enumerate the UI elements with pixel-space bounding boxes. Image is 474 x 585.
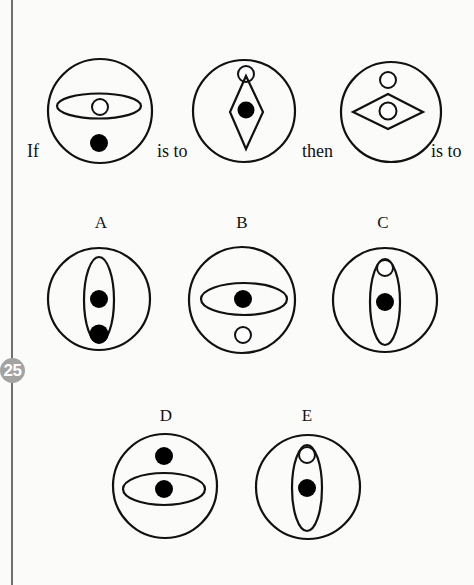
black-dot-icon — [238, 102, 255, 119]
black-dot-icon — [234, 290, 252, 308]
white-circle-icon — [92, 99, 108, 115]
option-e-figure[interactable] — [256, 435, 360, 539]
question-figure-1 — [48, 59, 152, 163]
white-circle-icon — [377, 260, 393, 276]
question-figure-2 — [193, 60, 295, 162]
white-circle-icon — [380, 103, 397, 120]
white-circle-icon — [235, 327, 251, 343]
question-figure-3 — [341, 62, 441, 162]
figures-canvas — [0, 0, 474, 585]
black-dot-icon — [90, 290, 108, 308]
option-c-figure[interactable] — [333, 248, 437, 352]
white-circle-icon — [380, 72, 396, 88]
black-dot-icon — [155, 447, 173, 465]
option-d-figure[interactable] — [113, 434, 217, 538]
white-circle-icon — [299, 447, 315, 463]
option-b-figure[interactable] — [189, 247, 295, 353]
black-dot-icon — [90, 325, 109, 344]
option-a-figure[interactable] — [48, 248, 150, 350]
black-dot-icon — [298, 479, 316, 497]
black-dot-icon — [90, 134, 108, 152]
black-dot-icon — [376, 293, 394, 311]
black-dot-icon — [155, 480, 173, 498]
